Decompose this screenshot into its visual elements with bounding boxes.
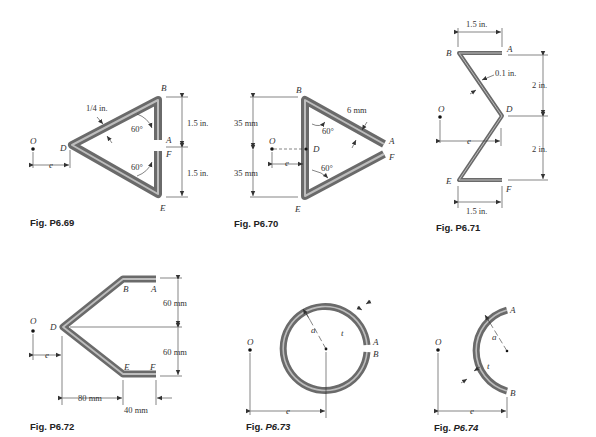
label-d: D [49,322,57,332]
dim-upper: 2 in. [532,80,547,90]
point-o [438,115,442,119]
caption-p6-69: Fig. P6.69 [30,217,74,228]
label-a: A [388,136,395,146]
dim-angle-bottom: 60° [131,162,143,172]
label-a: A [150,284,157,294]
label-f: F [165,149,172,159]
dim-lower: 1.5 in. [187,168,209,178]
dim-upper: 1.5 in. [187,118,209,128]
label-e-offset: e [467,136,471,146]
caption-p6-72: Fig. P6.72 [30,421,74,432]
figure-p6-74: O A B a t e Fig. P6.74 [434,305,516,433]
point-o [436,348,440,352]
figure-p6-70: O D B A F E e 6 mm 35 mm 35 mm 60° 60° F… [234,85,395,229]
point-o [31,329,35,333]
figure-p6-69: O D B A F E e 1/4 in. 1.5 in. 1.5 in. 60… [30,83,209,228]
label-e-offset: e [285,158,289,168]
label-d: D [312,144,320,154]
label-b: B [510,388,516,398]
label-a: A [165,135,172,145]
label-radius: a [492,332,497,342]
label-e: E [294,204,301,214]
label-b: B [123,284,129,294]
dim-bottom-width: 1.5 in. [466,206,488,216]
dim-lower: 35 mm [234,168,258,178]
label-e-offset: e [45,350,49,360]
caption-p6-70: Fig. P6.70 [234,218,278,229]
label-a: A [506,44,513,54]
dim-angle-bottom: 60° [321,163,333,173]
dim-thickness: 6 mm [347,105,367,115]
label-e: E [445,176,452,186]
label-radius: a [311,325,316,335]
label-e-offset: e [286,406,290,416]
caption-p6-73: Fig. P6.73 [246,421,291,432]
label-e-offset: e [49,160,53,170]
point-o [270,147,274,151]
dim-lower: 60 mm [163,347,187,357]
label-f: F [505,184,512,194]
label-o: O [247,337,254,347]
figure-p6-71: O D B A E F e 1.5 in. 1.5 in. 0.1 in. 2 … [436,19,548,233]
label-thickness: t [341,328,344,338]
label-d: D [505,104,513,114]
label-o: O [30,316,37,326]
label-d: D [59,143,67,153]
point-o [248,348,252,352]
caption-p6-71: Fig. P6.71 [436,222,481,233]
dim-thickness: 1/4 in. [86,103,108,113]
label-o: O [269,136,276,146]
dim-top-width: 1.5 in. [466,19,488,29]
dim-lower: 2 in. [532,144,547,154]
label-a: A [509,305,516,315]
label-e: E [159,203,166,213]
dim-horizontal: 80 mm [78,393,102,403]
figures-canvas: O D B A F E e 1/4 in. 1.5 in. 1.5 in. 60… [0,0,596,437]
label-e-offset: e [470,406,474,416]
dim-angle-top: 60° [322,126,334,136]
label-b: B [296,85,302,95]
label-a: A [372,337,379,347]
label-f: F [388,152,395,162]
dim-upper: 35 mm [234,118,258,128]
label-f: F [149,362,156,372]
label-o: O [30,136,37,146]
dim-upper: 60 mm [163,298,187,308]
point-o [31,147,35,151]
caption-p6-74: Fig. P6.74 [434,422,479,433]
label-e: E [123,362,130,372]
dim-flange: 40 mm [124,405,148,415]
label-thickness: t [487,361,490,371]
point-d [304,147,307,150]
figure-p6-72: O D B A E F e 60 mm 60 mm 80 mm 40 mm Fi… [30,278,187,432]
label-b: B [373,349,379,359]
label-o: O [435,337,442,347]
label-b: B [446,48,452,58]
dim-angle-top: 60° [131,124,143,134]
label-o: O [438,104,445,114]
figure-p6-73: O A B a t e Fig. P6.73 [246,301,379,432]
label-b: B [161,83,167,93]
dim-thickness: 0.1 in. [495,68,517,78]
